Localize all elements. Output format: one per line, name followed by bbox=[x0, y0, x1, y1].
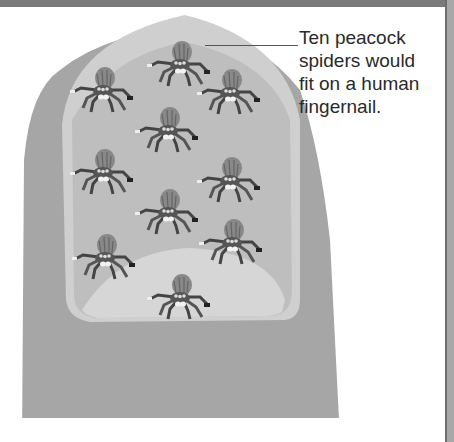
caption-leader-line bbox=[205, 45, 298, 46]
figure-caption: Ten peacock spiders would fit on a human… bbox=[299, 26, 449, 118]
